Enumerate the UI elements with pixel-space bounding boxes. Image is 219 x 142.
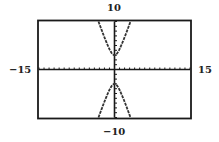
graph-window xyxy=(0,0,219,142)
axes xyxy=(39,22,190,118)
